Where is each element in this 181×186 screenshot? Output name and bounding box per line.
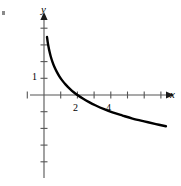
x-axis-label: x [170,89,175,100]
coordinate-plot [0,0,181,186]
y-axis-label: y [41,4,46,15]
figure-container: y x 1 2 4 [0,0,181,186]
x-tick-label-2: 2 [73,103,78,113]
x-tick-label-4: 4 [106,103,111,113]
y-tick-label-1: 1 [32,72,37,82]
